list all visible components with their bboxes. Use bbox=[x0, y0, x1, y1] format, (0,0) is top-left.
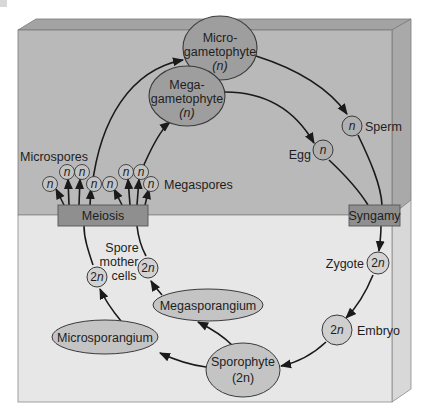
megaspore: n bbox=[119, 165, 134, 180]
microspore: n bbox=[87, 177, 102, 192]
mother-cell-mega: 2n bbox=[138, 258, 158, 278]
microspore: n bbox=[60, 165, 75, 180]
node-megasporangium: Megasporangium bbox=[153, 289, 263, 321]
box-side-lower bbox=[392, 200, 411, 402]
svg-text:n: n bbox=[91, 177, 98, 191]
syngamy-label: Syngamy bbox=[348, 209, 401, 223]
embryo-ploidy: 2n bbox=[330, 323, 344, 337]
svg-text:2n: 2n bbox=[141, 261, 155, 275]
microspore: n bbox=[75, 165, 90, 180]
zygote-label: Zygote bbox=[326, 257, 364, 271]
svg-text:n: n bbox=[123, 165, 130, 179]
spore-mother-cells-label-1: Spore bbox=[105, 241, 138, 255]
egg-label: Egg bbox=[289, 148, 311, 162]
egg-ploidy: n bbox=[320, 143, 327, 157]
spore-mother-cells-label-2: mother bbox=[100, 255, 139, 269]
arrow-meiosis-spore bbox=[79, 179, 80, 205]
sperm-label: Sperm bbox=[365, 120, 402, 134]
arrow-meiosis-spore bbox=[68, 179, 69, 205]
megaspores-label: Megaspores bbox=[164, 178, 233, 192]
microgametophyte-label-1: Micro- bbox=[203, 31, 238, 45]
node-microsporangium: Microsporangium bbox=[52, 320, 158, 354]
svg-text:2n: 2n bbox=[90, 270, 104, 284]
megagametophyte-label-1: Mega- bbox=[169, 78, 204, 92]
zygote-ploidy: 2n bbox=[371, 256, 385, 270]
microgametophyte-ploidy: (n) bbox=[212, 59, 227, 73]
microspores-label: Microspores bbox=[20, 150, 88, 164]
node-sporophyte: Sporophyte (2n) bbox=[206, 343, 280, 397]
svg-text:n: n bbox=[107, 177, 114, 191]
corner-mark bbox=[0, 0, 7, 7]
megasporangium-label: Megasporangium bbox=[160, 299, 257, 313]
megaspore: n bbox=[144, 177, 159, 192]
box-side-upper bbox=[392, 19, 411, 215]
svg-text:n: n bbox=[47, 177, 54, 191]
megagametophyte-label-2: gametophyte bbox=[151, 92, 223, 106]
arrow-meiosis-spore bbox=[90, 189, 91, 205]
process-syngamy: Syngamy bbox=[348, 205, 401, 226]
meiosis-label: Meiosis bbox=[82, 209, 124, 223]
svg-text:n: n bbox=[64, 165, 71, 179]
sporophyte-ploidy: (2n) bbox=[232, 371, 254, 385]
sperm-ploidy: n bbox=[349, 119, 356, 133]
microspore: n bbox=[43, 177, 58, 192]
microgametophyte-label-2: gametophyte bbox=[184, 45, 256, 59]
process-meiosis: Meiosis bbox=[58, 205, 148, 226]
megaspore: n bbox=[103, 177, 118, 192]
svg-text:n: n bbox=[79, 165, 86, 179]
megaspore: n bbox=[134, 165, 149, 180]
megagametophyte-ploidy: (n) bbox=[179, 106, 194, 120]
mother-cell-micro: 2n bbox=[87, 267, 107, 287]
node-megagametophyte: Mega- gametophyte (n) bbox=[149, 66, 225, 126]
svg-text:n: n bbox=[138, 165, 145, 179]
sporophyte-label: Sporophyte bbox=[211, 355, 275, 369]
life-cycle-diagram: Micro- gametophyte (n) Mega- gametophyte… bbox=[0, 0, 440, 412]
embryo-label: Embryo bbox=[357, 324, 400, 338]
svg-text:n: n bbox=[148, 177, 155, 191]
spore-mother-cells-label-3: cells bbox=[111, 269, 136, 283]
microsporangium-label: Microsporangium bbox=[57, 331, 153, 345]
